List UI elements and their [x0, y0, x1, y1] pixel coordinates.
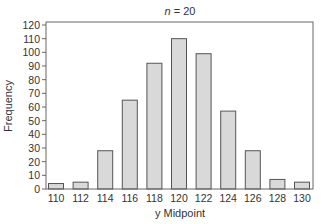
- bars: [49, 39, 310, 189]
- y-tick-label: 30: [28, 142, 40, 154]
- x-tick-label: 126: [244, 192, 262, 204]
- y-tick-label: 0: [34, 183, 40, 195]
- x-tick-label: 128: [269, 192, 287, 204]
- histogram-chart: n = 20 0102030405060708090100110120 1101…: [0, 0, 322, 224]
- x-tick-label: 116: [121, 192, 138, 204]
- y-tick-label: 40: [28, 128, 40, 140]
- x-tick-label: 120: [170, 192, 188, 204]
- x-tick-label: 122: [195, 192, 213, 204]
- x-tick-label: 118: [146, 192, 163, 204]
- x-tick-label: 110: [48, 192, 65, 204]
- x-axis-label: y Midpoint: [155, 207, 205, 219]
- bar-110: [49, 184, 64, 189]
- bar-128: [270, 179, 285, 189]
- bar-126: [245, 151, 260, 189]
- bar-122: [196, 54, 211, 189]
- y-tick-label: 80: [28, 74, 40, 86]
- chart-title: n = 20: [165, 5, 196, 17]
- y-tick-label: 120: [22, 19, 40, 31]
- bar-130: [295, 182, 310, 189]
- y-tick-label: 50: [28, 115, 40, 127]
- y-tick-label: 110: [23, 33, 40, 45]
- y-tick-label: 10: [28, 169, 40, 181]
- y-tick-label: 20: [28, 156, 40, 168]
- y-axis-label: Frequency: [2, 80, 14, 132]
- bar-118: [147, 63, 162, 189]
- bar-114: [98, 151, 113, 189]
- y-axis: 0102030405060708090100110120: [22, 19, 46, 195]
- y-tick-label: 60: [28, 101, 40, 113]
- bar-124: [221, 111, 236, 189]
- bar-120: [172, 39, 187, 189]
- bar-112: [73, 182, 88, 189]
- x-tick-label: 112: [72, 192, 89, 204]
- y-tick-label: 100: [22, 46, 40, 58]
- y-tick-label: 70: [28, 87, 40, 99]
- bar-116: [122, 100, 137, 189]
- x-axis: 110112114116118120122124126128130: [48, 192, 311, 204]
- y-tick-label: 90: [28, 60, 40, 72]
- x-tick-label: 114: [97, 192, 114, 204]
- x-tick-label: 130: [293, 192, 311, 204]
- x-tick-label: 124: [219, 192, 237, 204]
